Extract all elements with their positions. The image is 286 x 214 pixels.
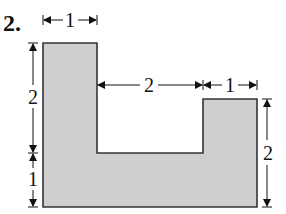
u-shape-figure: 1 2 1 2 1 2 [0, 0, 286, 214]
label-left-upper-height: 2 [28, 86, 38, 108]
label-gap-width: 2 [144, 74, 154, 96]
label-top-left-width: 1 [65, 9, 75, 31]
dim-top-right-width: 1 [203, 74, 257, 96]
u-shape [43, 43, 257, 207]
label-right-height: 2 [263, 142, 273, 164]
dim-left-lower-height: 1 [28, 154, 38, 207]
dim-top-left-width: 1 [43, 9, 97, 31]
label-left-lower-height: 1 [28, 168, 38, 190]
dim-left-upper-height: 2 [28, 43, 38, 153]
dim-right-height: 2 [262, 99, 273, 207]
dim-gap-width: 2 [98, 74, 202, 96]
label-top-right-width: 1 [225, 74, 235, 96]
